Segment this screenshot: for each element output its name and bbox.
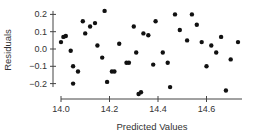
- data-point: [95, 43, 99, 47]
- data-point: [105, 80, 109, 84]
- data-point: [224, 88, 228, 92]
- data-point: [173, 12, 177, 16]
- data-point: [185, 38, 189, 42]
- residual-scatter-plot: 0.20.10.0−0.1−0.2 14.014.214.414.6 Resid…: [0, 0, 256, 139]
- data-point: [141, 31, 145, 35]
- data-point: [190, 12, 194, 16]
- data-point: [161, 50, 165, 54]
- data-point: [132, 24, 136, 28]
- data-point: [69, 49, 73, 53]
- x-axis-title: Predicted Values: [116, 121, 187, 132]
- data-point: [178, 28, 182, 32]
- data-point: [71, 81, 75, 85]
- y-tick-label: 0.1: [34, 27, 47, 37]
- data-point: [64, 34, 68, 38]
- x-tick-label: 14.2: [101, 104, 119, 114]
- data-point: [219, 35, 223, 39]
- data-point: [102, 9, 106, 13]
- data-point: [88, 24, 92, 28]
- y-tick-label: −0.1: [29, 61, 47, 71]
- data-point: [229, 57, 233, 61]
- data-point: [168, 85, 172, 89]
- data-point: [214, 50, 218, 54]
- x-tick-label: 14.0: [52, 104, 70, 114]
- data-point: [76, 69, 80, 73]
- data-point: [151, 62, 155, 66]
- y-tick-label: 0.2: [34, 9, 47, 19]
- data-point: [93, 21, 97, 25]
- data-points: [59, 9, 240, 97]
- data-point: [153, 19, 157, 23]
- x-axis: 14.014.214.414.6: [52, 96, 242, 114]
- data-point: [117, 42, 121, 46]
- y-tick-label: −0.2: [29, 79, 47, 89]
- data-point: [134, 50, 138, 54]
- data-point: [100, 55, 104, 59]
- data-point: [71, 64, 75, 68]
- y-tick-label: 0.0: [34, 44, 47, 54]
- data-point: [127, 61, 131, 65]
- data-point: [195, 23, 199, 27]
- data-point: [166, 61, 170, 65]
- y-axis-title: Residuals: [2, 29, 13, 71]
- data-point: [236, 40, 240, 44]
- data-point: [146, 33, 150, 37]
- data-point: [59, 40, 63, 44]
- data-point: [209, 43, 213, 47]
- data-point: [83, 31, 87, 35]
- data-point: [81, 19, 85, 23]
- data-point: [200, 40, 204, 44]
- y-axis: 0.20.10.0−0.1−0.2: [29, 9, 56, 88]
- data-point: [204, 64, 208, 68]
- x-tick-label: 14.4: [149, 104, 167, 114]
- data-point: [139, 90, 143, 94]
- data-point: [112, 69, 116, 73]
- x-tick-label: 14.6: [198, 104, 216, 114]
